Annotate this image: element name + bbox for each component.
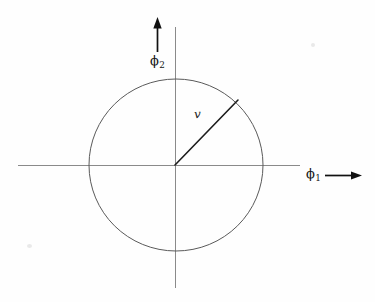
radius-vector-v [175, 100, 238, 165]
unit-circle-diagram [0, 0, 375, 302]
horizontal-axis-label: ϕ1 [306, 167, 321, 183]
phi1-symbol: ϕ [306, 166, 315, 181]
phi2-subscript: 2 [159, 60, 165, 70]
phi1-subscript: 1 [315, 173, 321, 183]
phi1-direction-arrow [325, 171, 362, 179]
phi2-direction-arrow [153, 17, 161, 52]
vector-label: v [194, 108, 201, 120]
vertical-axis-label: ϕ2 [150, 54, 165, 70]
figure-canvas: ϕ2 ϕ1 v [0, 0, 375, 302]
phi2-symbol: ϕ [150, 53, 159, 68]
